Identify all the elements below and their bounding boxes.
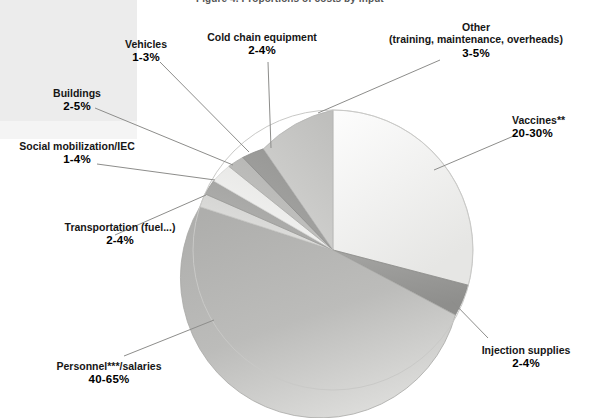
pie-label-social-name: Social mobilization/IEC [0, 140, 157, 152]
pie-label-vaccines-name: Vaccines** [512, 114, 612, 126]
pie-label-social-value: 1-4% [0, 153, 157, 167]
pie-label-other-sub: (training, maintenance, overheads) [366, 33, 586, 45]
pie-label-vehicles-name: Vehicles [96, 38, 196, 50]
pie-label-other: Other (training, maintenance, overheads)… [366, 21, 586, 60]
chart-page: Figure 4. Proportions of costs by input [0, 0, 612, 418]
pie-label-buildings-name: Buildings [27, 87, 127, 99]
pie-label-injection-value: 2-4% [451, 357, 601, 371]
pie-label-personnel-name: Personnel***/salaries [24, 360, 194, 372]
leader-line-cold-chain [268, 62, 271, 148]
pie-label-cold-chain-name: Cold chain equipment [192, 31, 332, 43]
pie-label-cold-chain-value: 2-4% [192, 44, 332, 58]
pie-label-injection-name: Injection supplies [451, 344, 601, 356]
leader-line-vehicles [160, 62, 249, 152]
pie-label-other-value: 3-5% [366, 47, 586, 61]
pie-label-social-mobilization: Social mobilization/IEC 1-4% [0, 140, 157, 167]
pie-label-cold-chain-equipment: Cold chain equipment 2-4% [192, 31, 332, 58]
pie-label-vehicles-value: 1-3% [96, 51, 196, 65]
pie-label-vaccines: Vaccines** 20-30% [512, 114, 612, 141]
pie-label-injection-supplies: Injection supplies 2-4% [451, 344, 601, 371]
pie-label-transportation: Transportation (fuel...) 2-4% [40, 221, 200, 248]
pie-label-vaccines-value: 20-30% [512, 127, 612, 141]
leader-line-injection [452, 301, 488, 338]
pie-label-buildings-value: 2-5% [27, 100, 127, 114]
pie-label-buildings: Buildings 2-5% [27, 87, 127, 114]
pie-label-vehicles: Vehicles 1-3% [96, 38, 196, 65]
pie-label-transportation-value: 2-4% [40, 234, 200, 248]
leader-line-other [318, 60, 440, 113]
pie-label-transportation-name: Transportation (fuel...) [40, 221, 200, 233]
pie-label-personnel-value: 40-65% [24, 373, 194, 387]
leader-line-vaccines [434, 135, 516, 170]
pie-label-personnel: Personnel***/salaries 40-65% [24, 360, 194, 387]
pie-label-other-name: Other [366, 21, 586, 33]
